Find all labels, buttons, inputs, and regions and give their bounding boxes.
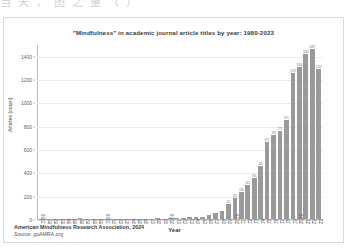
y-tick-mark: [33, 220, 35, 221]
chart-figure: "Mindfulness" in academic journal articl…: [3, 17, 344, 243]
chart-title: "Mindfulness" in academic journal articl…: [4, 29, 343, 36]
bar[interactable]: [278, 131, 283, 219]
y-tick-mark: [33, 103, 35, 104]
bar[interactable]: [297, 67, 302, 219]
bar-slot[interactable]: 1314: [315, 45, 321, 219]
y-tick-label: 1400: [21, 54, 32, 60]
bar[interactable]: [291, 73, 296, 219]
chart-footer: American Mindfulness Research Associatio…: [14, 224, 144, 238]
y-tick-mark: [33, 80, 35, 81]
y-tick-mark: [33, 126, 35, 127]
y-tick-label: 1200: [21, 77, 32, 83]
bar[interactable]: [258, 166, 263, 219]
bar[interactable]: [226, 204, 231, 219]
y-tick-label: 600: [24, 147, 32, 153]
x-tick-label: 23: [319, 219, 324, 224]
y-tick-label: 200: [24, 194, 32, 200]
bar[interactable]: [252, 178, 257, 219]
bar[interactable]: [265, 142, 270, 219]
y-tick-mark: [33, 56, 35, 57]
bar[interactable]: [303, 54, 308, 219]
plot-area: 1311812363023564626747407718711279133414…: [37, 45, 323, 220]
y-tick-label: 1000: [21, 100, 32, 106]
bar[interactable]: [310, 49, 315, 219]
bar-series: 1311812363023564626747407718711279133414…: [37, 45, 323, 219]
footer-source: Source: goAMRA.org: [14, 231, 144, 238]
bar[interactable]: [271, 135, 276, 219]
y-axis-tick-labels: 0200400600800100012001400: [4, 45, 35, 220]
y-tick-label: 800: [24, 124, 32, 130]
bar[interactable]: [316, 69, 321, 219]
bar[interactable]: [245, 185, 250, 219]
footer-attribution: American Mindfulness Research Associatio…: [14, 224, 144, 231]
clipped-top-text-strip: 当 天 ， 图 之 量 （ ）: [0, 0, 348, 11]
y-tick-mark: [33, 196, 35, 197]
y-tick-mark: [33, 150, 35, 151]
y-tick-label: 400: [24, 170, 32, 176]
y-tick-mark: [33, 173, 35, 174]
bar[interactable]: [284, 120, 289, 219]
clipped-cjk-text: 当 天 ， 图 之 量 （ ）: [0, 0, 139, 9]
bar[interactable]: [220, 211, 225, 219]
y-tick-label: 0: [29, 217, 32, 223]
